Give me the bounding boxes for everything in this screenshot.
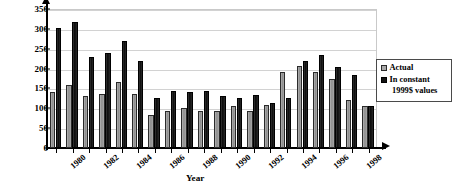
bar-group	[148, 9, 164, 148]
bar-constant	[154, 98, 159, 148]
bar-constant	[89, 57, 94, 148]
bar-constant	[122, 41, 127, 148]
x-tick-label: 1992	[266, 152, 286, 171]
bar-actual	[181, 108, 186, 148]
x-tick-label: 1990	[233, 152, 253, 171]
bar-constant	[270, 103, 275, 148]
bar-actual	[214, 111, 219, 148]
x-tick-label: 1984	[134, 152, 154, 171]
x-tick-label: 1982	[101, 152, 121, 171]
legend-swatch-constant-icon	[381, 77, 387, 83]
bar-group	[197, 9, 213, 148]
ammonia-price-bar-chart: Average annual ammonia price (US$/ton) 0…	[0, 0, 454, 190]
legend-label-constant-line2: 1999$ values	[381, 86, 448, 97]
x-tick-label: 1986	[167, 152, 187, 171]
legend-label-actual: Actual	[390, 63, 414, 74]
bar-constant	[335, 67, 340, 148]
bar-group	[230, 9, 246, 148]
y-axis-ticks: 050100150200250300350	[18, 0, 48, 160]
x-axis-tick-labels: 1980198219841986198819901992199419961998	[48, 152, 388, 186]
bar-actual	[346, 100, 351, 148]
x-axis-title: Year	[186, 173, 204, 183]
bar-group	[66, 9, 82, 148]
bar-actual	[264, 105, 269, 148]
bar-actual	[198, 111, 203, 148]
bar-actual	[132, 94, 137, 148]
chart-legend: Actual In constant 1999$ values	[376, 59, 452, 102]
bar-group	[131, 9, 147, 148]
bar-constant	[72, 22, 77, 148]
bar-actual	[66, 85, 71, 148]
bar-actual	[165, 111, 170, 148]
bar-group	[82, 9, 98, 148]
bar-group	[247, 9, 263, 148]
bar-constant	[286, 98, 291, 148]
bar-group	[49, 9, 65, 148]
bar-group	[214, 9, 230, 148]
bar-actual	[83, 96, 88, 148]
bar-actual	[231, 106, 236, 148]
bar-constant	[253, 95, 258, 148]
bar-actual	[148, 115, 153, 148]
bar-actual	[362, 106, 367, 148]
bar-group	[312, 9, 328, 148]
legend-item-actual: Actual	[381, 63, 448, 74]
bar-series-layer	[48, 9, 377, 148]
bar-constant	[319, 55, 324, 148]
bar-actual	[247, 111, 252, 148]
legend-label-constant: In constant	[390, 75, 430, 86]
bar-actual	[297, 66, 302, 148]
bar-group	[296, 9, 312, 148]
bar-group	[263, 9, 279, 148]
bar-actual	[50, 92, 55, 148]
bar-actual	[99, 94, 104, 148]
bar-group	[99, 9, 115, 148]
bar-group	[345, 9, 361, 148]
bar-constant	[237, 98, 242, 148]
legend-swatch-actual-icon	[381, 65, 387, 71]
bar-actual	[329, 79, 334, 148]
bar-constant	[187, 92, 192, 148]
bar-constant	[105, 53, 110, 148]
x-tick-label: 1996	[331, 152, 351, 171]
bar-group	[164, 9, 180, 148]
legend-item-constant: In constant	[381, 75, 448, 86]
bar-constant	[171, 91, 176, 148]
bar-constant	[352, 75, 357, 148]
bar-constant	[368, 106, 373, 148]
bar-group	[280, 9, 296, 148]
bar-constant	[204, 91, 209, 148]
bar-constant	[220, 96, 225, 148]
bar-group	[181, 9, 197, 148]
x-tick-label: 1980	[68, 152, 88, 171]
bar-actual	[280, 72, 285, 148]
x-tick-label: 1994	[299, 152, 319, 171]
bar-actual	[116, 82, 121, 148]
bar-actual	[313, 72, 318, 148]
bar-group	[329, 9, 345, 148]
x-tick-label: 1988	[200, 152, 220, 171]
bar-constant	[138, 61, 143, 148]
bar-constant	[56, 28, 61, 148]
bar-constant	[303, 61, 308, 148]
bar-group	[115, 9, 131, 148]
x-tick-label: 1998	[364, 152, 384, 171]
